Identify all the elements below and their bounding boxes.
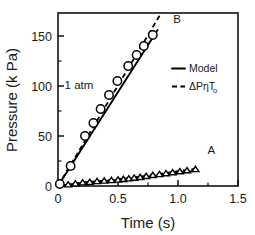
data-point-triangle xyxy=(72,181,79,186)
y-tick-label: 150 xyxy=(31,30,52,44)
y-tick-label: 100 xyxy=(31,80,52,94)
data-point-triangle xyxy=(65,182,72,187)
annotation-a: A xyxy=(207,144,215,156)
data-point-circle xyxy=(89,119,97,127)
data-point-circle xyxy=(149,31,157,39)
y-axis-label: Pressure (k Pa) xyxy=(3,48,20,152)
data-point-triangle xyxy=(169,170,176,175)
data-point-circle xyxy=(66,162,74,170)
x-tick-labels: 00.51.01.5 xyxy=(55,192,247,206)
series-markers xyxy=(56,31,199,188)
plot-frame xyxy=(58,13,238,186)
data-point-triangle xyxy=(79,180,86,185)
series-lines xyxy=(58,13,197,186)
x-tick-label: 0 xyxy=(55,192,62,206)
data-point-triangle xyxy=(192,166,199,171)
data-point-triangle xyxy=(94,178,101,183)
pressure-vs-time-chart: Pressure (k Pa) Time (s) 00.51.01.5 0501… xyxy=(0,0,255,235)
x-tick-label: 1.0 xyxy=(169,192,186,206)
data-point-triangle xyxy=(184,168,191,173)
data-point-circle xyxy=(132,51,140,59)
data-point-circle xyxy=(96,105,104,113)
data-point-circle xyxy=(105,91,113,99)
data-point-circle xyxy=(113,77,121,85)
y-tick-labels: 050100150 xyxy=(31,30,52,194)
data-point-triangle xyxy=(101,178,108,183)
legend-label-0: Model xyxy=(189,62,218,74)
data-point-circle xyxy=(124,62,132,70)
annotation-1-atm: 1 atm xyxy=(65,79,94,91)
chart-canvas: Pressure (k Pa) Time (s) 00.51.01.5 0501… xyxy=(0,0,255,235)
data-point-circle xyxy=(140,42,148,50)
legend-label-sub-1: o xyxy=(213,86,217,95)
y-tick-label: 0 xyxy=(45,180,52,194)
data-point-circle xyxy=(81,132,89,140)
data-point-circle xyxy=(56,180,64,188)
y-tick-label: 50 xyxy=(38,130,52,144)
y-axis-ticks xyxy=(58,36,64,186)
x-tick-label: 1.5 xyxy=(229,192,246,206)
data-point-triangle xyxy=(176,169,183,174)
x-axis-label: Time (s) xyxy=(121,214,175,231)
x-tick-label: 0.5 xyxy=(109,192,126,206)
annotation-b: B xyxy=(173,13,181,25)
data-point-triangle xyxy=(86,179,93,184)
chart-legend: ModelΔPηTo xyxy=(172,62,218,95)
legend-label-1: ΔPηT xyxy=(189,80,216,92)
